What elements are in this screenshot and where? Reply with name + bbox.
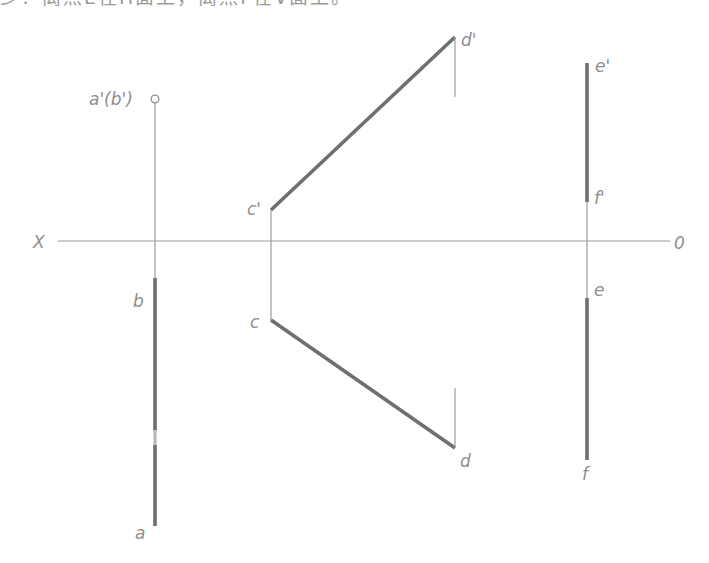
line-cd: c' c d' d [247, 30, 476, 471]
label-f-prime: f' [594, 188, 605, 208]
segment-cd-vertical [271, 37, 455, 210]
label-c-prime: c' [247, 199, 261, 219]
axis-label-o: 0 [674, 233, 685, 253]
label-b: b [133, 291, 144, 311]
line-ab: a'(b') b a [89, 89, 159, 543]
label-e-prime: e' [595, 56, 610, 76]
label-ab-prime: a'(b') [89, 89, 133, 109]
label-c: c [250, 312, 260, 332]
orthographic-projection-diagram: X 0 a'(b') b a c' c d' d e' f' e f [0, 0, 709, 563]
label-e: e [594, 280, 604, 300]
line-ef: e' f' e f [582, 56, 610, 484]
label-d: d [460, 451, 471, 471]
point-ab-prime [151, 95, 159, 103]
axis-label-x: X [32, 232, 45, 252]
segment-cd-horizontal [271, 320, 455, 448]
label-d-prime: d' [461, 30, 476, 50]
label-a: a [135, 523, 145, 543]
label-f: f [582, 464, 591, 484]
